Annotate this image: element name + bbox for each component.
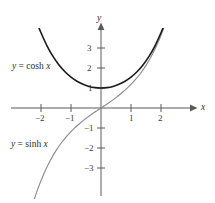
cosh-curve-annotation: y = cosh x [12,62,50,72]
sinh-annotation-fn: sinh [25,139,41,149]
y-tick-label-2: 2 [87,64,92,73]
cosh-annotation-fn: cosh [26,61,43,71]
plot-canvas [0,0,215,203]
x-tick-label-2: 2 [158,114,163,123]
sinh-annotation-var: x [44,139,48,149]
x-tick-label-neg1: −1 [65,114,75,123]
hyperbolic-functions-figure: y x 3 2 1 −1 −2 −3 −2 −1 1 2 y = cosh x … [0,0,215,203]
y-tick-label-1: 1 [88,84,93,93]
y-tick-label-neg1: −1 [84,124,94,133]
x-tick-label-1: 1 [129,114,134,123]
cosh-annotation-var: x [46,61,50,71]
sinh-curve-annotation: y = sinh x [11,140,48,150]
x-axis-label: x [201,103,205,113]
y-axis-label: y [97,14,101,24]
y-tick-label-neg2: −2 [84,144,94,153]
x-tick-label-neg2: −2 [35,114,45,123]
y-tick-label-neg3: −3 [84,164,94,173]
y-tick-label-3: 3 [87,44,92,53]
